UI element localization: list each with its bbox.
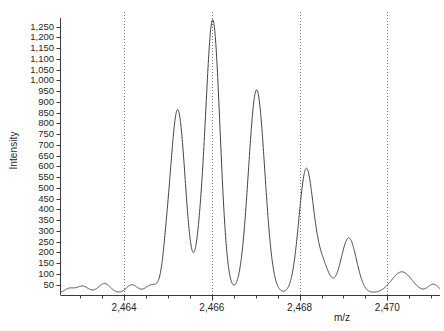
- y-tick-label: 50: [12, 280, 54, 290]
- y-tick-label: 100: [12, 269, 54, 279]
- x-tick-label: 2,470: [357, 303, 417, 313]
- y-tick-label: 150: [12, 258, 54, 268]
- x-tick-marks-group: [81, 296, 432, 301]
- y-tick-label: 1,250: [12, 22, 54, 32]
- y-tick-label: 1,100: [12, 54, 54, 64]
- y-tick-label: 250: [12, 237, 54, 247]
- x-tick-label: 2,466: [182, 303, 242, 313]
- y-tick-label: 950: [12, 86, 54, 96]
- y-tick-label: 1,050: [12, 65, 54, 75]
- y-tick-label: 1,150: [12, 43, 54, 53]
- y-tick-label: 1,200: [12, 32, 54, 42]
- x-tick-label: 2,464: [94, 303, 154, 313]
- y-tick-label: 350: [12, 215, 54, 225]
- y-tick-label: 850: [12, 108, 54, 118]
- y-tick-label: 700: [12, 140, 54, 150]
- y-tick-label: 450: [12, 194, 54, 204]
- y-tick-label: 200: [12, 247, 54, 257]
- y-tick-label: 600: [12, 161, 54, 171]
- y-tick-label: 650: [12, 151, 54, 161]
- spectrum-trace: [61, 20, 441, 292]
- y-tick-label: 300: [12, 226, 54, 236]
- y-tick-label: 1,000: [12, 75, 54, 85]
- y-tick-label: 800: [12, 118, 54, 128]
- y-tick-label: 550: [12, 172, 54, 182]
- y-tick-label: 750: [12, 129, 54, 139]
- y-tick-label: 500: [12, 183, 54, 193]
- y-tick-marks-group: [57, 28, 61, 286]
- x-tick-label: 2,468: [270, 303, 330, 313]
- y-tick-label: 400: [12, 204, 54, 214]
- gridlines-group: [125, 12, 388, 296]
- x-axis-title: m/z: [312, 313, 372, 323]
- y-tick-label: 900: [12, 97, 54, 107]
- mass-spectrum-chart: Intensity 501001502002503003504004505005…: [0, 0, 444, 331]
- plot-canvas: [0, 0, 444, 331]
